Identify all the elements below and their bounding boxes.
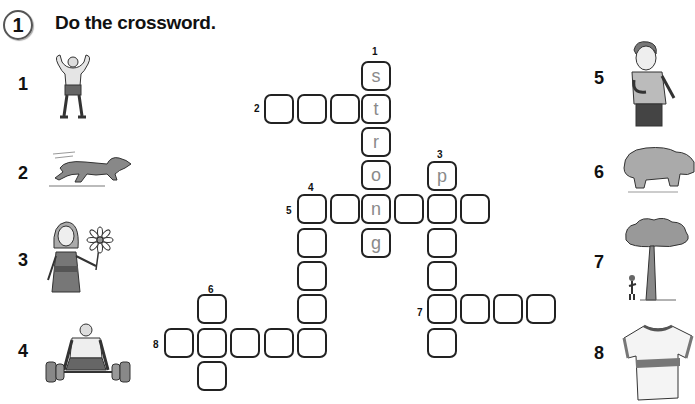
picture-number-4: 4 [18,341,28,362]
crossword-cell[interactable] [427,228,457,258]
picture-number-1: 1 [18,74,28,95]
crossword-cell[interactable]: t [361,94,391,124]
picture-number-6: 6 [594,162,604,183]
crossword-cell[interactable] [197,294,227,324]
clue-number-3: 3 [437,149,443,160]
t-shirt-illustration [622,320,695,404]
crossword-cell[interactable]: g [361,228,391,258]
crossword-cell[interactable]: r [361,127,391,157]
crossword-cell[interactable] [394,194,424,224]
crossword-cell[interactable] [297,261,327,291]
exercise-number-badge: 1 [3,10,33,40]
boy-illustration [622,40,682,128]
clue-number-7: 7 [417,307,423,318]
clue-number-8: 8 [153,339,159,350]
clue-number-1: 1 [372,46,378,57]
crossword-cell[interactable] [526,294,556,324]
crossword-cell[interactable] [197,328,227,358]
clue-number-6: 6 [208,284,214,295]
clue-number-2: 2 [254,103,260,114]
crossword-cell[interactable] [297,194,327,224]
hippo-illustration [618,140,695,196]
crossword-cell[interactable] [297,228,327,258]
crossword-cell[interactable] [264,94,294,124]
crossword-cell[interactable]: s [361,61,391,91]
strong-man-illustration [48,52,98,122]
crossword-cell[interactable] [264,328,294,358]
crossword-cell[interactable] [427,261,457,291]
weightlifter-illustration [42,320,134,388]
girl-with-flower-illustration [44,218,124,294]
clue-number-5: 5 [286,205,292,216]
tall-tree-illustration [620,216,695,306]
crossword-cell[interactable] [297,294,327,324]
picture-number-8: 8 [594,343,604,364]
crossword-cell[interactable]: o [361,160,391,190]
picture-number-2: 2 [18,163,28,184]
picture-number-5: 5 [594,68,604,89]
crossword-cell[interactable] [427,194,457,224]
crossword-cell[interactable] [330,94,360,124]
crossword-cell[interactable] [197,361,227,391]
running-dog-illustration [45,150,135,190]
picture-number-3: 3 [18,250,28,271]
crossword-cell[interactable] [297,94,327,124]
crossword-cell[interactable] [297,328,327,358]
crossword-cell[interactable] [427,328,457,358]
crossword-cell[interactable] [460,194,490,224]
crossword-cell[interactable] [460,294,490,324]
crossword-cell[interactable] [164,328,194,358]
picture-number-7: 7 [594,252,604,273]
crossword-cell[interactable]: p [427,161,457,191]
crossword-cell[interactable] [230,328,260,358]
crossword-cell[interactable] [427,294,457,324]
crossword-cell[interactable]: n [361,194,391,224]
exercise-instruction: Do the crossword. [55,12,216,34]
clue-number-4: 4 [308,182,314,193]
crossword-cell[interactable] [330,194,360,224]
crossword-cell[interactable] [493,294,523,324]
